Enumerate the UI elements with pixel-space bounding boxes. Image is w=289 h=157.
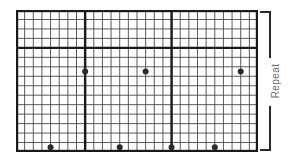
stitch-chart-grid [16,10,258,152]
repeat-label: Repeat [267,10,283,152]
pattern-chart-screen: Repeat [0,0,289,157]
repeat-annotation-group: Repeat [258,10,289,152]
grid-canvas [16,10,258,152]
grid-frame [16,10,258,152]
